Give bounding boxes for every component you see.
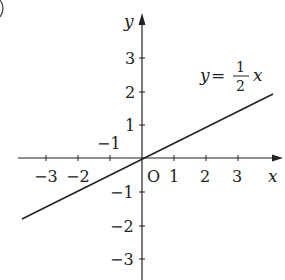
y-tick-label-neg3: −3	[110, 250, 134, 269]
y-tick-label-3: 3	[125, 49, 135, 68]
y-axis-arrow-icon	[139, 13, 146, 25]
equation-label: y = 1 2 x	[199, 59, 263, 94]
y-axis-label: y	[123, 11, 134, 31]
y-tick-label-1: 1	[125, 116, 135, 135]
paren-fragment	[0, 0, 3, 17]
y-tick-label-2: 2	[125, 83, 135, 102]
x-axis-arrow-icon	[272, 155, 283, 162]
origin-label: O	[147, 167, 160, 186]
x-tick-label-1: 1	[169, 167, 179, 186]
x-tick-label-neg1: −1	[97, 134, 121, 153]
x-tick-label-3: 3	[232, 167, 242, 186]
x-tick-label-neg3: −3	[34, 167, 58, 186]
y-tick-label-neg1: −1	[110, 183, 134, 202]
y-tick-label-neg2: −2	[110, 217, 134, 236]
function-line	[22, 94, 273, 219]
x-tick-label-neg2: −2	[66, 167, 90, 186]
x-tick-label-2: 2	[200, 167, 210, 186]
eq-denominator: 2	[236, 78, 245, 94]
x-axis-label: x	[268, 166, 278, 186]
eq-numerator: 1	[236, 59, 245, 75]
eq-equals: =	[211, 65, 225, 85]
eq-y: y	[199, 65, 210, 85]
eq-x: x	[253, 65, 263, 85]
coordinate-plot: y x O −3 −2 1 2 3 3 2 1 −1 −1 −2 −3 y = …	[0, 0, 285, 280]
